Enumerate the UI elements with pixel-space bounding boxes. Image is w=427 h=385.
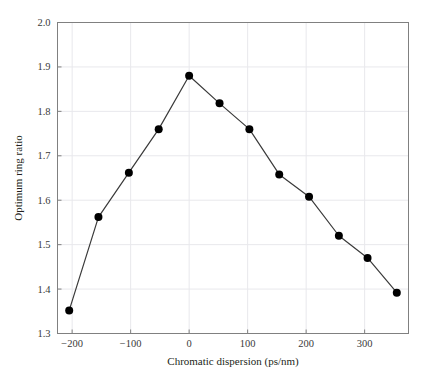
x-axis-tick-label: −100 — [120, 338, 142, 349]
data-point-marker — [185, 72, 193, 80]
x-axis-tick-label: 300 — [357, 338, 373, 349]
data-point-marker — [125, 169, 133, 177]
data-point-marker — [216, 99, 224, 107]
y-axis-tick-label: 1.5 — [37, 239, 50, 250]
data-point-marker — [155, 125, 163, 133]
x-axis-tick-label: 100 — [240, 338, 256, 349]
x-axis-title: Chromatic dispersion (ps/nm) — [167, 355, 299, 368]
y-axis-tick-label: 1.8 — [37, 106, 50, 117]
line-chart: −200−1000100200300 1.31.41.51.61.71.81.9… — [0, 0, 427, 385]
x-axis-tick-label: −200 — [61, 338, 83, 349]
figure-background — [0, 0, 427, 385]
y-axis-tick-label: 1.6 — [37, 195, 50, 206]
data-point-marker — [364, 254, 372, 262]
data-point-marker — [393, 289, 401, 297]
y-axis-tick-label: 1.7 — [37, 150, 50, 161]
x-axis-tick-label: 0 — [187, 338, 192, 349]
y-axis-tick-label: 1.4 — [37, 284, 51, 295]
x-axis-tick-label: 200 — [298, 338, 314, 349]
y-axis-title: Optimum ring ratio — [12, 135, 24, 221]
data-point-marker — [94, 213, 102, 221]
y-axis-tick-label: 1.9 — [37, 61, 50, 72]
y-axis-tick-label: 2.0 — [37, 17, 50, 28]
data-point-marker — [245, 125, 253, 133]
y-axis-tick-label: 1.3 — [37, 328, 50, 339]
data-point-marker — [275, 170, 283, 178]
data-point-marker — [335, 232, 343, 240]
data-point-marker — [65, 306, 73, 314]
data-point-marker — [305, 193, 313, 201]
chart-figure: −200−1000100200300 1.31.41.51.61.71.81.9… — [0, 0, 427, 385]
